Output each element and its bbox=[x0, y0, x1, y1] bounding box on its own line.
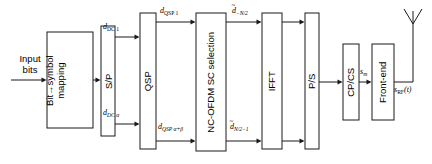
sig-sm-sub: m bbox=[363, 71, 367, 77]
tilde-accent-icon-2: ~ bbox=[230, 119, 236, 123]
signal-label-s-m: sm bbox=[360, 67, 367, 76]
input-bits-line2: bits bbox=[23, 64, 38, 75]
sig-d-qsp-ab-sub: QSP α+β bbox=[162, 126, 183, 132]
transmit-antenna-icon bbox=[404, 9, 422, 34]
arrowhead-cpcs-to-frontend bbox=[367, 80, 372, 85]
signal-label-d-dc-1: dDC 1 bbox=[103, 22, 119, 31]
tilde-accent-icon: ~ bbox=[232, 3, 238, 7]
signal-label-s-rf-t: sRF(t) bbox=[394, 85, 412, 94]
arrowhead-ncofdm-top-to-ifft bbox=[257, 20, 262, 25]
block-label-bit-symbol-mapping: Bit→symbol mapping bbox=[45, 23, 66, 139]
mapping-label-line2: mapping bbox=[55, 62, 66, 98]
sig-d-dc-alpha-sub: DC α bbox=[107, 112, 119, 118]
arrowhead-sp-top-to-qsp bbox=[135, 35, 140, 40]
block-label-ifft: IFFT bbox=[267, 36, 278, 126]
signal-label-d-tilde-n2-minus-1: ~dN/2−1 bbox=[230, 122, 249, 131]
signal-label-d-dc-alpha: dDC α bbox=[103, 108, 119, 117]
arrowhead-ncofdm-bottom-to-ifft bbox=[257, 139, 262, 144]
sig-dtilde-neg-sub: −N/2 bbox=[236, 10, 248, 16]
sig-srf-suffix: (t) bbox=[404, 85, 412, 94]
sig-srf-sub: RF bbox=[397, 89, 404, 95]
block-label-cp-cs: CP/CS bbox=[346, 37, 357, 127]
input-bits-line1: Input bbox=[19, 53, 40, 64]
sig-d-qsp-1-sub: QSP 1 bbox=[164, 10, 178, 16]
block-label-ps: P/S bbox=[307, 36, 318, 126]
signal-label-d-tilde-minus-n2: ~d−N/2 bbox=[232, 6, 248, 15]
block-label-front-end: Front-end bbox=[378, 37, 389, 127]
block-label-nc-ofdm-sc-selection: NC-OFDM SC selection bbox=[206, 20, 217, 144]
sig-dtilde-pos-sub: N/2−1 bbox=[234, 126, 249, 132]
signal-label-d-qsp-alpha-beta: dQSP α+β bbox=[158, 122, 183, 131]
block-diagram-figure: Input bits Bit→symbol mapping S/P QSP NC… bbox=[0, 0, 432, 164]
block-label-qsp: QSP bbox=[143, 36, 154, 126]
signal-label-d-qsp-1: dQSP 1 bbox=[160, 6, 178, 15]
wire-frontend-to-antenna bbox=[394, 34, 413, 82]
arrowhead-ps-to-cpcs bbox=[338, 80, 343, 85]
arrowhead-qsp-bottom-to-ncofdm bbox=[191, 139, 196, 144]
arrowhead-ifft-bottom-to-ps bbox=[300, 139, 305, 144]
sig-d-dc-1-sub: DC 1 bbox=[107, 26, 119, 32]
arrowhead-mapping-to-sp bbox=[96, 78, 101, 83]
arrowhead-qsp-top-to-ncofdm bbox=[191, 20, 196, 25]
mapping-label-line1: Bit→symbol bbox=[44, 55, 55, 106]
arrowhead-ifft-top-to-ps bbox=[300, 20, 305, 25]
arrowhead-sp-bottom-to-qsp bbox=[135, 122, 140, 127]
